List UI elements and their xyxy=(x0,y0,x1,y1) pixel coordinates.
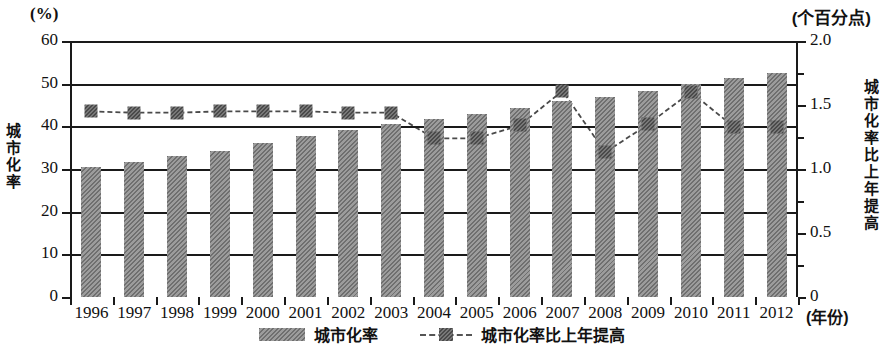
y-axis-tick xyxy=(62,254,70,256)
x-axis-tick xyxy=(370,297,372,305)
x-axis-tick xyxy=(670,297,672,305)
y-axis-tick-label: 50 xyxy=(41,73,58,93)
x-axis-tick-label: 1996 xyxy=(74,303,108,323)
x-axis-tick xyxy=(241,297,243,305)
line-data-point-marker xyxy=(727,120,740,133)
y-axis-tick xyxy=(62,41,70,43)
y-axis-tick-label: 10 xyxy=(41,243,58,263)
x-axis-tick-label: 2009 xyxy=(631,303,665,323)
bar xyxy=(510,108,530,297)
urbanization-rate-chart: (%) (个百分点) 城市化率 城市化率比上年提高 01020304050600… xyxy=(0,0,883,351)
y2-axis-tick-label: 0.5 xyxy=(810,222,831,242)
x-axis-tick xyxy=(113,297,115,305)
y2-axis-minor-tick xyxy=(798,137,804,139)
x-axis-tick xyxy=(198,297,200,305)
x-axis-tick-label: 2005 xyxy=(460,303,494,323)
line-data-point-marker xyxy=(213,105,226,118)
y2-axis-tick xyxy=(798,105,806,107)
x-axis-tick xyxy=(455,297,457,305)
y2-axis-tick xyxy=(798,233,806,235)
y-axis-tick-label: 60 xyxy=(41,30,58,50)
y-axis-tick xyxy=(62,297,70,299)
y2-axis-tick xyxy=(798,41,806,43)
line-data-point-marker xyxy=(513,119,526,132)
legend-item-line: 城市化率比上年提高 xyxy=(420,322,625,346)
y-axis-tick-label: 30 xyxy=(41,158,58,178)
line-data-point-marker xyxy=(299,105,312,118)
bar-swatch-icon xyxy=(259,328,305,341)
x-axis-tick xyxy=(284,297,286,305)
line-data-point-marker xyxy=(171,106,184,119)
line-data-point-marker xyxy=(470,132,483,145)
line-data-point-marker xyxy=(428,132,441,145)
bar xyxy=(595,97,615,297)
x-axis-tick xyxy=(755,297,757,305)
y2-axis-tick xyxy=(798,169,806,171)
bar xyxy=(724,78,744,297)
plot-area: 010203040506000.51.01.52.019961997199819… xyxy=(70,41,798,297)
x-axis-tick-label: 1998 xyxy=(160,303,194,323)
line-data-point-marker xyxy=(684,86,697,99)
y-axis-tick-label: 20 xyxy=(41,201,58,221)
y-axis-tick xyxy=(62,84,70,86)
line-data-point-marker xyxy=(342,106,355,119)
right-axis-title: 城市化率比上年提高 xyxy=(862,78,881,231)
line-data-point-marker xyxy=(599,146,612,159)
left-axis-title: 城市化率 xyxy=(4,122,23,190)
x-axis-tick xyxy=(156,297,158,305)
line-data-point-marker xyxy=(556,84,569,97)
bar xyxy=(767,73,787,297)
y2-axis-minor-tick xyxy=(798,73,804,75)
y-axis-tick xyxy=(62,126,70,128)
x-axis-tick-label: 2006 xyxy=(503,303,537,323)
line-data-point-marker xyxy=(642,118,655,131)
bar xyxy=(124,162,144,297)
bar xyxy=(681,84,701,297)
line-data-point-marker xyxy=(770,120,783,133)
line-data-point-marker xyxy=(256,105,269,118)
x-axis-tick xyxy=(498,297,500,305)
right-axis-unit: (个百分点) xyxy=(792,4,871,29)
y2-axis-tick-label: 1.5 xyxy=(810,94,831,114)
x-axis-tick-label: 2003 xyxy=(374,303,408,323)
x-axis-tick-label: 1999 xyxy=(203,303,237,323)
bar xyxy=(253,143,273,297)
bar xyxy=(338,130,358,297)
line-data-point-marker xyxy=(385,106,398,119)
x-axis-tick-label: 2000 xyxy=(246,303,280,323)
bar xyxy=(552,101,572,297)
bar xyxy=(296,136,316,297)
line-marker-icon xyxy=(420,328,472,341)
x-axis-tick xyxy=(70,297,72,305)
legend-label-line: 城市化率比上年提高 xyxy=(481,322,625,346)
left-axis-unit: (%) xyxy=(30,4,58,24)
y-axis-tick-label: 40 xyxy=(41,115,58,135)
line-data-point-marker xyxy=(85,105,98,118)
legend-item-bar: 城市化率 xyxy=(259,322,378,346)
y2-axis-minor-tick xyxy=(798,201,804,203)
y-axis-tick xyxy=(62,212,70,214)
bar xyxy=(424,119,444,297)
y2-axis-tick-label: 0 xyxy=(810,286,819,306)
x-axis-tick-label: 2012 xyxy=(760,303,794,323)
x-axis-tick xyxy=(712,297,714,305)
x-axis-tick xyxy=(584,297,586,305)
x-axis-tick-label: 2010 xyxy=(674,303,708,323)
y2-axis-tick-label: 2.0 xyxy=(810,30,831,50)
bar xyxy=(210,151,230,297)
line-data-point-marker xyxy=(128,106,141,119)
x-axis-tick-label: 2001 xyxy=(289,303,323,323)
x-axis-tick xyxy=(541,297,543,305)
y-axis-tick xyxy=(62,169,70,171)
y2-axis-tick-label: 1.0 xyxy=(810,158,831,178)
x-axis-tick xyxy=(413,297,415,305)
gridline xyxy=(70,41,798,43)
chart-legend: 城市化率 城市化率比上年提高 xyxy=(0,322,883,346)
x-axis-tick-label: 2008 xyxy=(588,303,622,323)
x-axis-tick xyxy=(627,297,629,305)
x-axis-tick xyxy=(327,297,329,305)
bar xyxy=(381,124,401,297)
y-axis-tick-label: 0 xyxy=(50,286,59,306)
x-axis-tick xyxy=(798,297,800,305)
bar xyxy=(81,167,101,297)
